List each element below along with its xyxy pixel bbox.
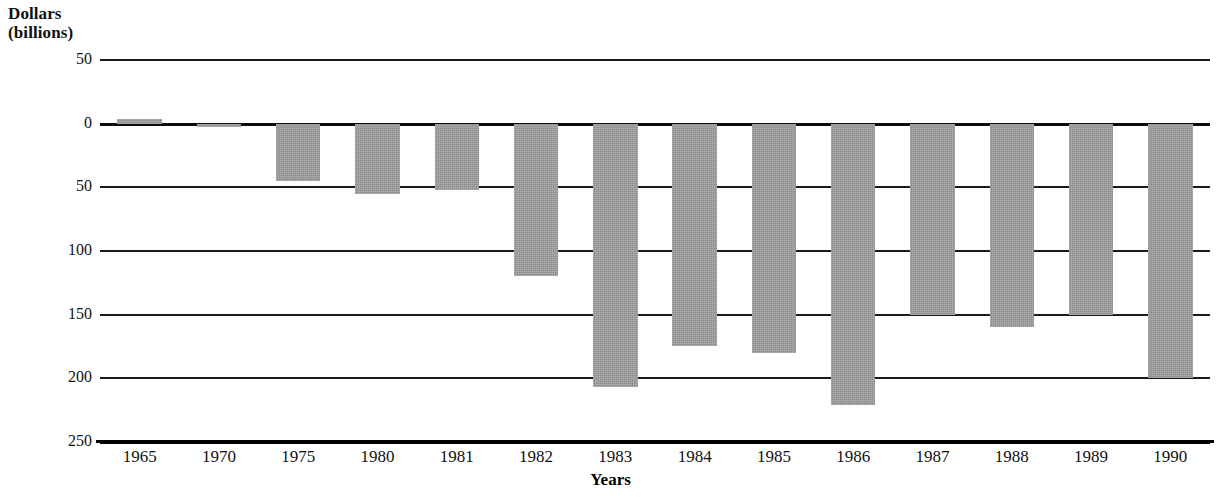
bars-layer bbox=[100, 60, 1210, 442]
x-tick-label-1982: 1982 bbox=[496, 446, 575, 468]
x-tick-label-1990: 1990 bbox=[1131, 446, 1210, 468]
y-tick-label: 50 bbox=[32, 51, 92, 67]
y-tick-label: 250 bbox=[32, 433, 92, 449]
bar-1987 bbox=[910, 124, 954, 315]
bar-1983 bbox=[593, 124, 637, 388]
plot-area: 50050100150200250 bbox=[100, 60, 1210, 442]
x-tick-label-1983: 1983 bbox=[576, 446, 655, 468]
y-axis-title-line2: (billions) bbox=[8, 23, 73, 42]
bar-1975 bbox=[276, 124, 320, 181]
y-tick-label: 200 bbox=[32, 369, 92, 385]
bar-1986 bbox=[831, 124, 875, 405]
y-tick-label: 150 bbox=[32, 306, 92, 322]
bar-1981 bbox=[435, 124, 479, 190]
y-axis-title-line1: Dollars bbox=[8, 4, 62, 23]
bar-1965 bbox=[117, 119, 161, 124]
x-tick-label-1965: 1965 bbox=[100, 446, 179, 468]
y-tick-label: 100 bbox=[32, 242, 92, 258]
y-axis-title: Dollars(billions) bbox=[8, 4, 73, 42]
x-tick-label-1988: 1988 bbox=[972, 446, 1051, 468]
bar-1982 bbox=[514, 124, 558, 277]
bar-1989 bbox=[1069, 124, 1113, 315]
bar-1985 bbox=[752, 124, 796, 353]
federal-deficit-bar-chart: Dollars(billions) 50050100150200250 1965… bbox=[0, 0, 1221, 500]
x-tick-label-1975: 1975 bbox=[259, 446, 338, 468]
y-tick-label: 0 bbox=[32, 115, 92, 131]
x-tick-label-1970: 1970 bbox=[179, 446, 258, 468]
x-tick-label-1985: 1985 bbox=[734, 446, 813, 468]
x-tick-label-1981: 1981 bbox=[417, 446, 496, 468]
x-tick-label-1987: 1987 bbox=[893, 446, 972, 468]
y-tick-label: 50 bbox=[32, 178, 92, 194]
bar-1970 bbox=[197, 124, 241, 128]
bar-1990 bbox=[1148, 124, 1192, 379]
x-tick-label-1989: 1989 bbox=[1051, 446, 1130, 468]
bar-1988 bbox=[990, 124, 1034, 328]
x-tick-label-1984: 1984 bbox=[655, 446, 734, 468]
x-axis-line bbox=[96, 440, 1214, 443]
bar-1984 bbox=[672, 124, 716, 347]
bar-1980 bbox=[355, 124, 399, 194]
x-tick-label-1980: 1980 bbox=[338, 446, 417, 468]
x-axis-title: Years bbox=[0, 470, 1221, 490]
x-tick-label-1986: 1986 bbox=[814, 446, 893, 468]
x-axis-tick-labels: 1965197019751980198119821983198419851986… bbox=[100, 446, 1210, 472]
